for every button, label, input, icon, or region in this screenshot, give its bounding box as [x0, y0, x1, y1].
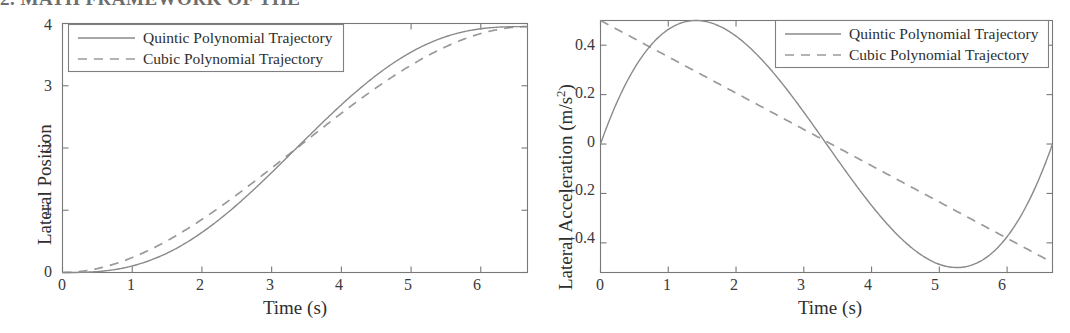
legend-left: Quintic Polynomial Trajectory Cubic Poly…	[69, 25, 344, 72]
legend-label-cubic-right: Cubic Polynomial Trajectory	[849, 46, 1029, 63]
legend-right: Quintic Polynomial Trajectory Cubic Poly…	[776, 21, 1049, 68]
figure-page: 2. MATH FRAMEWORK OF THE Lateral Positio…	[0, 0, 1070, 333]
legend-label-quintic-right: Quintic Polynomial Trajectory	[849, 25, 1039, 42]
legend-label-cubic-left: Cubic Polynomial Trajectory	[143, 50, 323, 67]
panel-lateral-acceleration: Lateral Acceleration (m/s2) Time (s) 0.4…	[535, 0, 1070, 333]
legend-label-quintic-left: Quintic Polynomial Trajectory	[143, 29, 333, 46]
plot-area-lateral-position: Quintic Polynomial Trajectory Cubic Poly…	[0, 0, 535, 333]
panel-lateral-position: Lateral Position Time (s) 0 1 2 3 4 0 1 …	[0, 0, 535, 333]
plot-area-lateral-acceleration: Quintic Polynomial Trajectory Cubic Poly…	[535, 0, 1070, 333]
